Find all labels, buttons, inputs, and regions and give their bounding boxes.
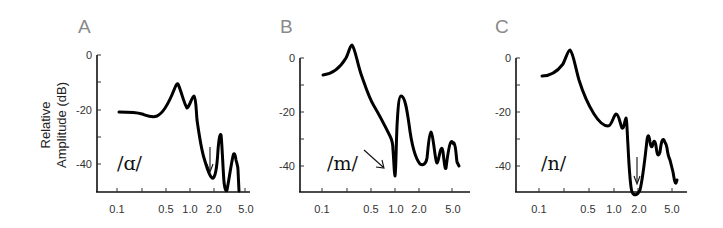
- y-axis-title: Relative Amplitude (dB): [38, 82, 69, 168]
- phoneme-label: /ɑ/: [117, 152, 143, 174]
- x-tick-label: 5.0: [445, 203, 460, 215]
- arrow-annotation: [634, 157, 640, 184]
- x-tick-label: 5.0: [238, 203, 253, 215]
- x-tick-label: 5.0: [664, 203, 679, 215]
- panel-b: B 0 -20 -40 0.1 0.5 1.0 2.0 5.0: [279, 16, 470, 215]
- x-tick-label: 1.0: [388, 203, 403, 215]
- y-tick-label: 0: [289, 52, 295, 64]
- y-tick-label: -40: [279, 160, 295, 172]
- y-tick-label: -20: [76, 104, 92, 116]
- y-tick-label: -20: [495, 106, 511, 118]
- phoneme-label: /m/: [327, 152, 358, 174]
- y-tick-label: -20: [279, 106, 295, 118]
- x-tick-label: 1.0: [606, 203, 621, 215]
- panel-letter: A: [78, 16, 91, 37]
- y-tick-label: -40: [76, 158, 92, 170]
- arrow-annotation: [364, 150, 384, 168]
- panel-c: C 0 -20 -40 0.1 0.5 1.0 2.0 5.0: [495, 16, 687, 215]
- x-tick-label: 0.5: [363, 203, 378, 215]
- x-tick-label: 1.0: [182, 203, 197, 215]
- y-axis-title-line1: Relative: [38, 102, 53, 149]
- panel-letter: C: [495, 16, 509, 37]
- x-tick-label: 0.1: [314, 203, 329, 215]
- x-tick-label: 2.0: [411, 203, 426, 215]
- y-tick-label: 0: [86, 49, 92, 61]
- x-tick-label: 0.5: [158, 203, 173, 215]
- y-axis-title-line2: Amplitude (dB): [54, 82, 69, 168]
- y-tick-label: 0: [505, 52, 511, 64]
- y-tick-label: -40: [495, 160, 511, 172]
- figure: Relative Amplitude (dB) A 0 -20 -40 0.1: [0, 0, 723, 228]
- panel-letter: B: [280, 16, 293, 37]
- spectrum-curve: [119, 84, 239, 191]
- x-tick-label: 0.1: [109, 203, 124, 215]
- phoneme-label: /n/: [541, 152, 567, 174]
- panel-a: A 0 -20 -40 0.1 0.5 1.0 2.0 5.0: [76, 16, 254, 215]
- x-tick-label: 0.5: [580, 203, 595, 215]
- x-tick-label: 2.0: [206, 203, 221, 215]
- x-tick-label: 2.0: [631, 203, 646, 215]
- x-tick-label: 0.1: [531, 203, 546, 215]
